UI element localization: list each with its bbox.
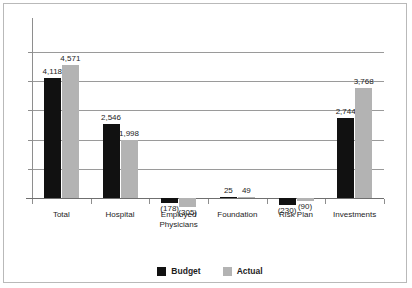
legend-item-actual: Actual <box>223 266 263 276</box>
legend-item-budget: Budget <box>157 266 200 276</box>
x-axis-tick <box>384 199 385 204</box>
bar-actual <box>121 140 138 198</box>
x-axis-category-label: Investments <box>320 210 390 220</box>
bar-value-label: 49 <box>226 186 266 195</box>
bar-value-label: 4,571 <box>50 54 90 63</box>
legend-label-budget: Budget <box>171 266 200 276</box>
bar-value-label: 3,768 <box>344 77 384 86</box>
bar-actual <box>179 198 196 207</box>
bar-budget <box>161 198 178 203</box>
bar-actual <box>62 65 79 198</box>
x-axis-tick <box>208 199 209 204</box>
bar-budget <box>44 78 61 198</box>
x-axis-tick <box>149 199 150 204</box>
chart-frame: 4,1184,571Total2,5461,998Hospital(178)(3… <box>3 3 407 283</box>
x-axis-tick <box>267 199 268 204</box>
chart-legend: Budget Actual <box>4 266 412 276</box>
bar-value-label: 1,998 <box>109 129 149 138</box>
bar-actual <box>297 198 314 201</box>
x-axis-tick <box>32 199 33 204</box>
legend-swatch-budget <box>157 267 166 276</box>
x-axis-tick <box>325 199 326 204</box>
bar-budget <box>220 197 237 198</box>
legend-swatch-actual <box>223 267 232 276</box>
bar-value-label: 2,546 <box>91 113 131 122</box>
bar-actual <box>355 88 372 198</box>
bar-budget <box>337 118 354 198</box>
legend-label-actual: Actual <box>237 266 263 276</box>
bar-series-container: 4,1184,571Total2,5461,998Hospital(178)(3… <box>4 4 412 288</box>
bar-actual <box>238 197 255 198</box>
x-axis-tick <box>91 199 92 204</box>
